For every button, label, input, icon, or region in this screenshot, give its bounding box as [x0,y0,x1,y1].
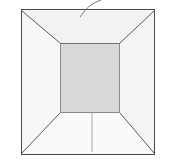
floor-panel [61,44,120,113]
figure-canvas [0,0,169,165]
box-line-drawing [0,0,169,165]
